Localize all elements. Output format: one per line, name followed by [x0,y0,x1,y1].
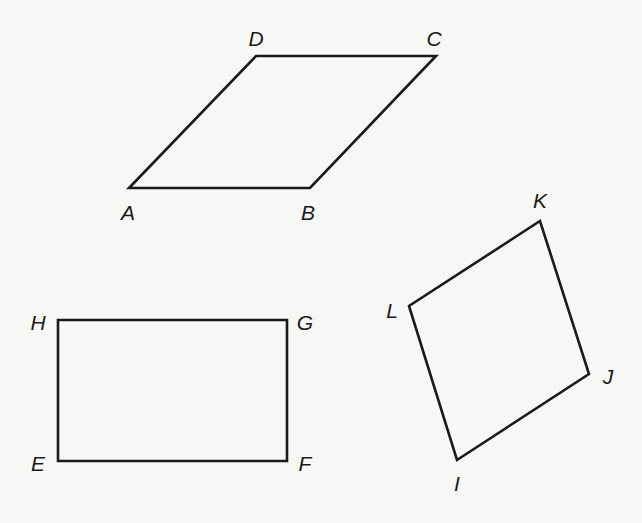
vertex-label-d: D [248,27,263,50]
vertex-label-i: I [454,472,460,495]
vertex-label-g: G [297,311,313,334]
vertex-label-a: A [119,201,135,224]
vertex-label-f: F [299,452,313,475]
vertex-label-b: B [301,201,315,224]
vertex-label-c: C [426,27,442,50]
vertex-label-j: J [602,365,614,388]
parallelogram-abcd [129,56,436,188]
geometry-diagram: A B C D E F G H I J K L [0,0,642,523]
vertex-label-k: K [533,189,548,212]
quadrilateral-ijkl [409,221,589,460]
vertex-label-h: H [30,311,46,334]
diagram-canvas: A B C D E F G H I J K L [0,0,642,523]
vertex-label-e: E [31,452,46,475]
rectangle-efgh [58,320,287,461]
quadrilateral-ijkl-outline [409,221,589,460]
rectangle-efgh-outline [58,320,287,461]
parallelogram-abcd-outline [129,56,436,188]
vertex-label-l: L [386,299,398,322]
